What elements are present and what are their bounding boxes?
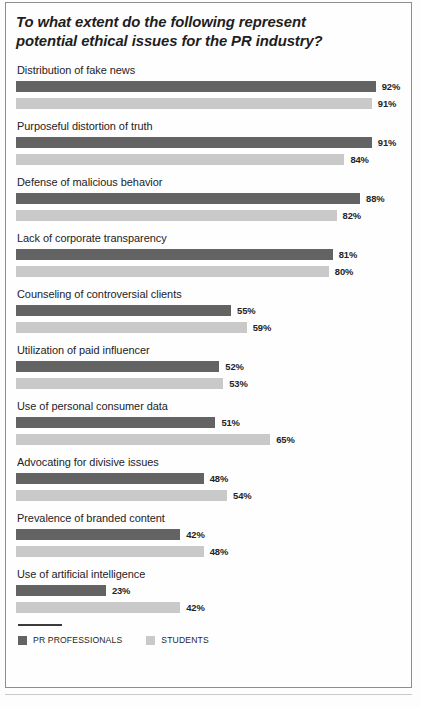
bar-row: 65%: [16, 434, 411, 445]
bar-row: 51%: [16, 417, 411, 428]
bar-pr-professionals: [16, 249, 333, 260]
bar-row: 55%: [16, 305, 411, 316]
bar-pr-professionals: [16, 529, 180, 540]
bar-value-label: 23%: [112, 585, 130, 596]
bar-value-label: 84%: [350, 154, 368, 165]
bar-value-label: 92%: [382, 81, 400, 92]
bar-row: 91%: [16, 137, 411, 148]
bar-value-label: 51%: [221, 417, 239, 428]
legend-items: PR PROFESSIONALSSTUDENTS: [18, 635, 411, 645]
bar-row: 81%: [16, 249, 411, 260]
bar-students: [16, 490, 227, 501]
bar-value-label: 48%: [210, 546, 228, 557]
bar-value-label: 81%: [339, 249, 357, 260]
bar-students: [16, 434, 270, 445]
bar-value-label: 82%: [343, 210, 361, 221]
bar-row: 92%: [16, 81, 411, 92]
bar-students: [16, 546, 204, 557]
category-label: Lack of corporate transparency: [17, 232, 399, 245]
bar-pr-professionals: [16, 473, 204, 484]
bar-group: Counseling of controversial clients55%59…: [16, 288, 411, 333]
bar-group: Lack of corporate transparency81%80%: [16, 232, 411, 277]
bar-chart-plot: Distribution of fake news92%91%Purposefu…: [16, 64, 411, 613]
bar-row: 54%: [16, 490, 411, 501]
bar-row: 53%: [16, 378, 411, 389]
bar-pr-professionals: [16, 585, 106, 596]
bar-row: 80%: [16, 266, 411, 277]
legend-rule: [18, 624, 62, 626]
legend-label: PR PROFESSIONALS: [33, 635, 122, 645]
bar-row: 84%: [16, 154, 411, 165]
bar-group: Use of personal consumer data51%65%: [16, 400, 411, 445]
bar-pr-professionals: [16, 81, 376, 92]
infographic-figure: To what extent do the following represen…: [0, 0, 421, 707]
category-label: Prevalence of branded content: [17, 512, 399, 525]
bar-value-label: 55%: [237, 305, 255, 316]
chart-legend: PR PROFESSIONALSSTUDENTS: [18, 624, 411, 645]
bar-students: [16, 154, 344, 165]
bar-group: Advocating for divisive issues48%54%: [16, 456, 411, 501]
category-label: Defense of malicious behavior: [17, 176, 399, 189]
bar-row: 23%: [16, 585, 411, 596]
bar-row: 42%: [16, 602, 411, 613]
bar-pr-professionals: [16, 361, 219, 372]
bar-value-label: 52%: [225, 361, 243, 372]
category-label: Use of artificial intelligence: [17, 568, 399, 581]
bar-pr-professionals: [16, 193, 360, 204]
chart-title: To what extent do the following represen…: [16, 12, 342, 50]
bar-pr-professionals: [16, 137, 372, 148]
bar-value-label: 48%: [210, 473, 228, 484]
bar-value-label: 59%: [253, 322, 271, 333]
bar-row: 48%: [16, 546, 411, 557]
bar-row: 88%: [16, 193, 411, 204]
legend-item[interactable]: STUDENTS: [146, 635, 209, 645]
category-label: Advocating for divisive issues: [17, 456, 399, 469]
bar-students: [16, 210, 337, 221]
bar-group: Distribution of fake news92%91%: [16, 64, 411, 109]
legend-swatch-icon: [146, 636, 155, 645]
bar-value-label: 53%: [229, 378, 247, 389]
legend-item[interactable]: PR PROFESSIONALS: [18, 635, 122, 645]
category-label: Utilization of paid influencer: [17, 344, 399, 357]
bar-group: Prevalence of branded content42%48%: [16, 512, 411, 557]
category-label: Purposeful distortion of truth: [17, 120, 399, 133]
bar-students: [16, 266, 329, 277]
category-label: Distribution of fake news: [17, 64, 399, 77]
bar-value-label: 42%: [186, 529, 204, 540]
bar-group: Use of artificial intelligence23%42%: [16, 568, 411, 613]
legend-swatch-icon: [18, 636, 27, 645]
bar-value-label: 42%: [186, 602, 204, 613]
bar-value-label: 65%: [276, 434, 294, 445]
legend-label: STUDENTS: [161, 635, 209, 645]
bar-value-label: 88%: [366, 193, 384, 204]
bar-pr-professionals: [16, 305, 231, 316]
bar-students: [16, 378, 223, 389]
bar-row: 42%: [16, 529, 411, 540]
category-label: Counseling of controversial clients: [17, 288, 399, 301]
bar-group: Defense of malicious behavior88%82%: [16, 176, 411, 221]
bar-row: 48%: [16, 473, 411, 484]
bar-value-label: 54%: [233, 490, 251, 501]
bar-value-label: 91%: [378, 98, 396, 109]
bar-row: 59%: [16, 322, 411, 333]
bar-group: Utilization of paid influencer52%53%: [16, 344, 411, 389]
bar-row: 91%: [16, 98, 411, 109]
category-label: Use of personal consumer data: [17, 400, 399, 413]
bar-value-label: 91%: [378, 137, 396, 148]
bar-students: [16, 602, 180, 613]
bar-students: [16, 322, 247, 333]
bar-pr-professionals: [16, 417, 215, 428]
bar-row: 82%: [16, 210, 411, 221]
bar-value-label: 80%: [335, 266, 353, 277]
bar-group: Purposeful distortion of truth91%84%: [16, 120, 411, 165]
bar-students: [16, 98, 372, 109]
figure-content: To what extent do the following represen…: [16, 12, 411, 701]
bar-row: 52%: [16, 361, 411, 372]
